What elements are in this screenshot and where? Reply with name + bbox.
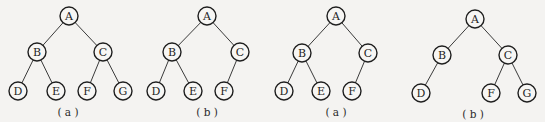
tree-2-node-c: C <box>231 43 249 61</box>
tree-3-edge-b-e <box>306 61 317 83</box>
tree-3-node-c: C <box>359 44 377 62</box>
tree-3-edge-c-f <box>355 61 364 82</box>
tree-2-edge-a-b <box>178 22 200 45</box>
tree-4-node-g: G <box>518 84 536 102</box>
tree-4-node-c: C <box>499 46 517 64</box>
tree-1-edge-c-f <box>90 60 99 82</box>
tree-4-node-b: B <box>433 46 451 64</box>
tree-3-node-e: E <box>312 82 330 100</box>
tree-2-node-b: B <box>163 43 181 61</box>
tree-1-node-d: D <box>9 82 27 100</box>
node-label: F <box>348 85 356 98</box>
node-label: D <box>280 85 289 98</box>
node-label: F <box>83 85 91 98</box>
node-label: A <box>64 10 74 23</box>
tree-1-node-f: F <box>78 82 96 100</box>
tree-1-edge-a-b <box>43 23 63 46</box>
node-label: B <box>168 46 176 59</box>
tree-2: ABCDEF ( b ) <box>147 7 249 118</box>
tree-3-edge-b-d <box>288 61 298 83</box>
node-label: E <box>189 85 197 98</box>
tree-1: ABCDEFG ( a ) <box>9 7 132 118</box>
node-label: B <box>438 49 446 62</box>
node-label: G <box>119 85 128 98</box>
tree-3-edge-a-b <box>308 23 330 47</box>
tree-4-node-f: F <box>482 84 500 102</box>
tree-3-edge-a-c <box>342 23 362 46</box>
node-label: B <box>33 46 41 59</box>
tree-4-node-a: A <box>466 10 484 28</box>
tree-4-edge-c-f <box>495 63 505 85</box>
node-label: C <box>236 46 244 59</box>
node-label: D <box>14 85 23 98</box>
node-label: D <box>417 87 426 100</box>
tree-1-node-b: B <box>28 43 46 61</box>
tree-1-edge-c-g <box>107 60 119 83</box>
tree-4-edge-a-c <box>481 26 502 49</box>
node-label: C <box>364 47 372 60</box>
tree-1-node-a: A <box>60 7 78 25</box>
node-label: D <box>152 85 161 98</box>
node-label: C <box>99 46 107 59</box>
tree-2-edge-b-e <box>176 60 188 83</box>
binary-tree-figure: ABCDEFG ( a ) ABCDEF ( b ) ABCDEF ( a ) … <box>0 0 545 122</box>
node-label: F <box>220 85 228 98</box>
tree-3-node-b: B <box>293 44 311 62</box>
tree-2-caption: ( b ) <box>196 106 218 118</box>
tree-1-node-g: G <box>114 82 132 100</box>
tree-2-node-f: F <box>215 82 233 100</box>
node-label: A <box>470 13 480 26</box>
node-label: A <box>331 10 341 23</box>
tree-1-edge-b-e <box>41 60 52 83</box>
tree-1-node-e: E <box>47 82 65 100</box>
tree-1-node-c: C <box>94 43 112 61</box>
tree-3-node-d: D <box>275 82 293 100</box>
tree-3-node-a: A <box>327 7 345 25</box>
tree-2-node-d: D <box>147 82 165 100</box>
node-label: C <box>504 49 512 62</box>
tree-1-edge-b-d <box>22 60 33 83</box>
tree-4-nodes: ABCDFG <box>412 10 536 102</box>
tree-2-edge-a-c <box>213 23 234 46</box>
tree-3-caption: ( a ) <box>325 106 346 118</box>
tree-1-nodes: ABCDEFG <box>9 7 132 100</box>
tree-3-node-f: F <box>343 82 361 100</box>
node-label: B <box>298 47 306 60</box>
tree-4-edge-a-b <box>448 26 469 49</box>
node-label: A <box>202 10 212 23</box>
node-label: F <box>487 87 495 100</box>
tree-2-node-e: E <box>184 82 202 100</box>
tree-4-node-d: D <box>412 84 430 102</box>
tree-1-caption: ( a ) <box>57 106 78 118</box>
tree-2-node-a: A <box>198 7 216 25</box>
node-label: E <box>52 85 60 98</box>
tree-3-nodes: ABCDEF <box>275 7 377 100</box>
node-label: G <box>523 87 532 100</box>
tree-2-edge-b-d <box>159 60 168 82</box>
tree-4-caption: ( b ) <box>462 108 484 120</box>
tree-2-edge-c-f <box>227 60 236 82</box>
tree-4: ABCDFG ( b ) <box>412 10 536 120</box>
tree-4-edge-b-d <box>425 63 437 85</box>
tree-1-edge-a-c <box>75 23 97 46</box>
tree-4-edge-c-g <box>512 63 523 85</box>
node-label: E <box>317 85 325 98</box>
tree-2-nodes: ABCDEF <box>147 7 249 100</box>
tree-3: ABCDEF ( a ) <box>275 7 377 118</box>
